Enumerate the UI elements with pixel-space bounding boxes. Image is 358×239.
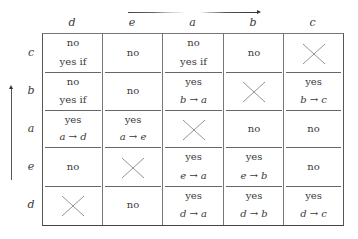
cell-relation: d → c: [284, 209, 343, 219]
table-cell-b-a: yesb → a: [163, 73, 224, 111]
row-header-d: d: [24, 198, 38, 211]
up-arrow-icon: [11, 88, 12, 180]
column-header-d: d: [42, 16, 102, 29]
cell-relation: b → c: [284, 95, 343, 105]
table-cell-e-c: no: [284, 148, 343, 187]
table-cell-a-d: yesa → d: [43, 111, 103, 148]
cell-relation: d → b: [224, 209, 284, 219]
table-cell-e-a: yese → a: [163, 148, 224, 187]
cell-answer: no: [43, 38, 103, 48]
cell-text: no: [224, 48, 284, 58]
column-header-a: a: [162, 16, 223, 29]
cell-text: no: [43, 162, 103, 172]
table-cell-b-e: no: [103, 73, 163, 111]
cell-relation: e → a: [163, 171, 224, 181]
cell-text: no: [103, 48, 163, 58]
table-cell-a-a: [163, 111, 224, 148]
cell-answer: yes: [284, 191, 343, 201]
table-cell-c-e: no: [103, 34, 163, 73]
cell-text: no: [284, 124, 343, 134]
cell-text: no: [224, 124, 284, 134]
cross-icon: [181, 118, 207, 142]
table-cell-a-b: no: [224, 111, 284, 148]
cross-icon: [120, 156, 146, 180]
row-header-a: a: [24, 122, 38, 135]
cell-text: no: [284, 162, 343, 172]
table-cell-c-a: noyes if: [163, 34, 224, 73]
row-header-b: b: [24, 84, 38, 97]
cell-relation: b → a: [163, 95, 224, 105]
table-cell-b-d: noyes if: [43, 73, 103, 111]
cell-answer: no: [163, 38, 224, 48]
cross-icon: [60, 194, 86, 218]
cell-relation: d → a: [163, 209, 224, 219]
table-cell-d-b: yesd → b: [224, 187, 284, 225]
cell-condition: yes if: [43, 95, 103, 105]
cell-answer: yes: [224, 191, 284, 201]
cell-answer: yes: [224, 152, 284, 162]
cell-answer: yes: [43, 115, 103, 125]
cell-answer: yes: [163, 152, 224, 162]
column-header-b: b: [223, 16, 283, 29]
table-cell-b-b: [224, 73, 284, 111]
table-cell-c-c: [284, 34, 343, 73]
table-cell-e-b: yese → b: [224, 148, 284, 187]
table-cell-d-a: yesd → a: [163, 187, 224, 225]
cell-answer: no: [43, 77, 103, 87]
cell-relation: a → d: [43, 132, 103, 142]
table-cell-c-b: no: [224, 34, 284, 73]
cross-icon: [241, 80, 267, 104]
table-cell-d-c: yesd → c: [284, 187, 343, 225]
cell-answer: yes: [103, 115, 163, 125]
table-cell-d-e: no: [103, 187, 163, 225]
cell-condition: yes if: [163, 57, 224, 67]
table-cell-a-e: yesa → e: [103, 111, 163, 148]
comparison-table: noyes ifnonoyes ifnonoyes ifnoyesb → aye…: [42, 33, 344, 226]
cell-answer: yes: [163, 191, 224, 201]
cell-relation: a → e: [103, 132, 163, 142]
table-cell-e-e: [103, 148, 163, 187]
row-header-c: c: [24, 46, 38, 59]
right-arrow-icon: [128, 12, 258, 13]
cell-condition: yes if: [43, 57, 103, 67]
cell-answer: yes: [163, 77, 224, 87]
column-header-e: e: [102, 16, 162, 29]
cell-relation: e → b: [224, 171, 284, 181]
row-header-e: e: [24, 160, 38, 173]
cell-text: no: [103, 86, 163, 96]
column-header-c: c: [283, 16, 342, 29]
table-cell-b-c: yesb → c: [284, 73, 343, 111]
cell-answer: yes: [284, 77, 343, 87]
cross-icon: [301, 42, 327, 66]
table-cell-c-d: noyes if: [43, 34, 103, 73]
table-cell-d-d: [43, 187, 103, 225]
table-cell-e-d: no: [43, 148, 103, 187]
table-cell-a-c: no: [284, 111, 343, 148]
cell-text: no: [103, 200, 163, 210]
